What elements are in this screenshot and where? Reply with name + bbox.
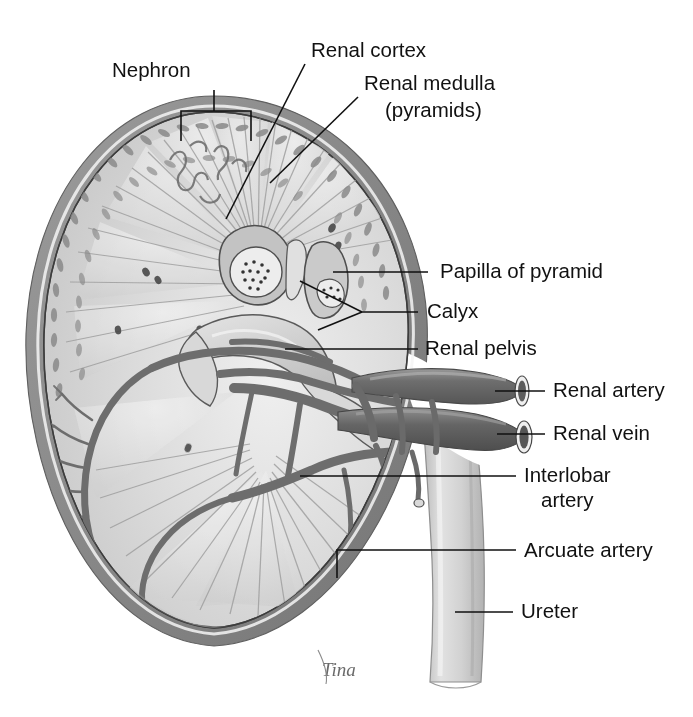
label-papilla-of-pyramid: Papilla of pyramid	[440, 259, 603, 282]
label-calyx: Calyx	[427, 299, 479, 322]
label-renal-medulla-pyramids: (pyramids)	[385, 98, 482, 121]
label-nephron: Nephron	[112, 58, 191, 81]
artist-signature: Tina	[318, 650, 356, 684]
label-renal-medulla: Renal medulla	[364, 71, 496, 94]
label-interlobar-artery-sub: artery	[541, 488, 594, 511]
label-renal-pelvis: Renal pelvis	[425, 336, 537, 359]
label-ureter: Ureter	[521, 599, 578, 622]
label-renal-cortex: Renal cortex	[311, 38, 427, 61]
kidney-anatomy-figure: Nephron Renal cortex Renal medulla (pyra…	[0, 0, 693, 717]
label-arcuate-artery: Arcuate artery	[524, 538, 653, 561]
leader-arcuate-artery	[337, 550, 516, 578]
label-renal-artery: Renal artery	[553, 378, 665, 401]
signature-text: Tina	[322, 659, 356, 680]
ureter-tube	[424, 432, 484, 688]
label-interlobar-artery: Interlobar	[524, 463, 611, 486]
label-renal-vein: Renal vein	[553, 421, 650, 444]
